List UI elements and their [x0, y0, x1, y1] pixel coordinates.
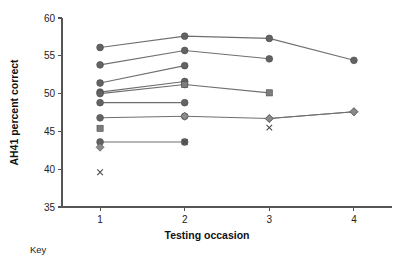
data-point-diamond: [350, 108, 358, 116]
series-line: [100, 85, 185, 94]
y-axis-title: AH41 percent correct: [8, 59, 20, 166]
point-square-45: [97, 125, 103, 131]
chart-series-series-11: [265, 108, 358, 123]
chart-series-series-7: [97, 113, 188, 121]
series-line: [100, 82, 185, 93]
data-point-circle: [351, 57, 358, 64]
point-cross-40: [97, 169, 103, 175]
data-point-circle: [97, 44, 104, 51]
data-point-circle: [97, 99, 104, 106]
point-diamond-43: [96, 143, 104, 151]
y-tick-label: 45: [44, 126, 56, 137]
data-point-square: [266, 90, 272, 96]
data-point-circle: [266, 35, 273, 42]
x-tick-label: 1: [97, 214, 103, 225]
chart-point-point-diamond-43: [96, 143, 104, 151]
y-tick-label: 40: [44, 164, 56, 175]
data-point-square: [182, 81, 188, 87]
y-tick-label: 60: [44, 13, 56, 24]
chart-point-point-cross-45: [267, 125, 273, 131]
y-tick-label: 55: [44, 50, 56, 61]
data-point-circle: [97, 61, 104, 68]
chart-series-layer: [96, 33, 358, 175]
chart-series-series-5: [97, 81, 188, 97]
series-line: [269, 112, 354, 119]
series-line: [100, 66, 185, 83]
data-point-circle: [97, 114, 104, 121]
data-point-circle: [181, 47, 188, 54]
series-line: [100, 116, 185, 118]
data-point-circle: [181, 33, 188, 40]
chart-figure: 3540455055601234Testing occasionAH41 per…: [0, 0, 401, 272]
y-tick-label: 50: [44, 88, 56, 99]
series-line: [185, 85, 270, 93]
key-label: Key: [30, 244, 47, 255]
data-point-circle: [97, 90, 104, 97]
line-chart: 3540455055601234Testing occasionAH41 per…: [0, 0, 401, 272]
y-tick-label: 35: [44, 202, 56, 213]
point-cross-45: [267, 125, 273, 131]
chart-series-series-8: [97, 139, 188, 146]
x-axis-title: Testing occasion: [165, 229, 250, 241]
chart-point-point-square-45: [97, 125, 103, 131]
x-tick-label: 4: [351, 214, 357, 225]
x-tick-label: 2: [182, 214, 188, 225]
data-point-circle: [266, 55, 273, 62]
chart-series-series-6: [97, 99, 188, 106]
x-tick-label: 3: [267, 214, 273, 225]
chart-point-point-cross-40: [97, 169, 103, 175]
data-point-diamond: [265, 115, 273, 123]
data-point-diamond: [181, 112, 189, 120]
data-point-circle: [97, 80, 104, 87]
data-point-circle: [181, 62, 188, 69]
series-line: [100, 36, 354, 60]
chart-series-series-9: [182, 81, 273, 96]
data-point-circle: [181, 99, 188, 106]
